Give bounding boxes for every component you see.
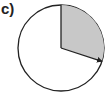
pie-diagram: [0, 0, 107, 93]
